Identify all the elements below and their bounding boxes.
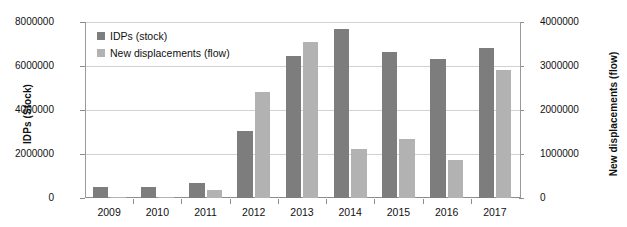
bar-flow-2014 [351, 149, 366, 198]
x-axis-tickmark [278, 199, 279, 204]
bar-stock-2009 [93, 187, 108, 198]
y-axis-right-title: New displacements (flow) [608, 24, 619, 204]
bar-group-2014 [327, 22, 375, 198]
bar-group-2015 [375, 22, 423, 198]
y-axis-right-tickmark [519, 198, 524, 199]
legend-swatch-icon [97, 32, 105, 40]
bar-flow-2015 [399, 139, 414, 198]
bar-group-2017 [472, 22, 520, 198]
legend: IDPs (stock)New displacements (flow) [97, 28, 230, 62]
x-axis-tickmark [230, 199, 231, 204]
bar-group-2013 [279, 22, 327, 198]
y-axis-right-tick-1000000: 1000000 [540, 149, 579, 159]
legend-swatch-icon [97, 49, 105, 57]
bar-stock-2017 [479, 48, 494, 198]
bar-flow-2012 [255, 92, 270, 198]
y-axis-left-tick-4000000: 4000000 [15, 105, 54, 115]
bar-stock-2012 [237, 131, 252, 198]
x-axis-label-2016: 2016 [423, 199, 471, 221]
x-axis-categories: 200920102011201220132014201520162017 [85, 199, 519, 221]
x-axis-tickmark [181, 199, 182, 204]
x-axis-label-2017: 2017 [471, 199, 519, 221]
bar-stock-2010 [141, 187, 156, 198]
bar-stock-2014 [334, 29, 349, 198]
x-axis-tickmark [133, 199, 134, 204]
chart-container: IDPs (Stock) New displacements (flow) 80… [0, 0, 627, 227]
x-axis-label-2011: 2011 [181, 199, 229, 221]
bar-stock-2015 [382, 52, 397, 198]
bar-flow-2016 [448, 160, 463, 198]
x-axis-label-2013: 2013 [278, 199, 326, 221]
x-axis-tickmark [326, 199, 327, 204]
bar-flow-2017 [496, 70, 511, 198]
x-axis-tickmark [423, 199, 424, 204]
legend-item-flow: New displacements (flow) [97, 45, 230, 60]
y-axis-right-tick-0: 0 [540, 193, 546, 203]
y-axis-right-tick-4000000: 4000000 [540, 17, 579, 27]
bar-flow-2013 [303, 42, 318, 198]
bar-flow-2009 [110, 197, 125, 198]
bar-stock-2013 [286, 56, 301, 198]
legend-label: IDPs (stock) [110, 30, 167, 42]
y-axis-left-tick-6000000: 6000000 [15, 61, 54, 71]
bar-stock-2016 [430, 59, 445, 198]
bar-flow-2011 [207, 190, 222, 198]
x-axis-label-2014: 2014 [326, 199, 374, 221]
x-axis-label-2012: 2012 [230, 199, 278, 221]
y-axis-left-tick-2000000: 2000000 [15, 149, 54, 159]
x-axis-tickmark [374, 199, 375, 204]
bar-group-2012 [231, 22, 279, 198]
y-axis-right-tick-3000000: 3000000 [540, 61, 579, 71]
bar-group-2016 [424, 22, 472, 198]
x-axis-tickmark [471, 199, 472, 204]
x-axis-label-2009: 2009 [85, 199, 133, 221]
x-axis-label-2010: 2010 [133, 199, 181, 221]
y-axis-right-tick-2000000: 2000000 [540, 105, 579, 115]
bar-flow-2010 [158, 197, 173, 198]
y-axis-left-tick-0: 0 [48, 193, 54, 203]
y-axis-left-tick-8000000: 8000000 [15, 17, 54, 27]
legend-label: New displacements (flow) [110, 47, 230, 59]
x-axis-label-2015: 2015 [374, 199, 422, 221]
bar-stock-2011 [189, 183, 204, 198]
legend-item-stock: IDPs (stock) [97, 28, 230, 43]
